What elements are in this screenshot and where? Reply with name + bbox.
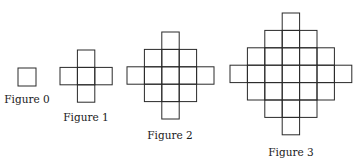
grid-cell bbox=[60, 67, 77, 84]
grid-cell bbox=[179, 49, 196, 66]
grid-cell bbox=[179, 67, 196, 84]
grid-cell bbox=[282, 117, 299, 134]
grid-cell bbox=[317, 48, 334, 65]
grid-cell bbox=[317, 65, 334, 82]
grid-cell bbox=[317, 83, 334, 100]
figure-2 bbox=[127, 32, 214, 119]
figure-1-label: Figure 1 bbox=[63, 111, 108, 123]
grid-cell bbox=[247, 65, 264, 82]
figure-3 bbox=[230, 13, 352, 135]
grid-cell bbox=[282, 65, 299, 82]
grid-cell bbox=[334, 65, 351, 82]
grid-cell bbox=[282, 13, 299, 30]
grid-cell bbox=[300, 100, 317, 117]
grid-cell bbox=[282, 83, 299, 100]
grid-cell bbox=[300, 48, 317, 65]
grid-cell bbox=[247, 48, 264, 65]
grid-cell bbox=[282, 30, 299, 47]
grid-cell bbox=[265, 30, 282, 47]
figure-1 bbox=[60, 50, 112, 102]
grid-cell bbox=[162, 32, 179, 49]
grid-cell bbox=[265, 48, 282, 65]
figure-0-label: Figure 0 bbox=[4, 93, 49, 105]
grid-cell bbox=[162, 84, 179, 101]
grid-cell bbox=[18, 68, 36, 86]
grid-cell bbox=[77, 50, 94, 67]
grid-cell bbox=[77, 85, 94, 102]
grid-cell bbox=[127, 67, 144, 84]
grid-cell bbox=[179, 84, 196, 101]
grid-cell bbox=[300, 30, 317, 47]
grid-cell bbox=[300, 83, 317, 100]
grid-cell bbox=[282, 48, 299, 65]
figure-2-label: Figure 2 bbox=[147, 129, 192, 141]
grid-cell bbox=[247, 83, 264, 100]
grid-cell bbox=[144, 49, 161, 66]
grid-cell bbox=[144, 84, 161, 101]
grid-cell bbox=[300, 65, 317, 82]
grid-cell bbox=[77, 67, 94, 84]
grid-cell bbox=[265, 100, 282, 117]
grid-cell bbox=[144, 67, 161, 84]
grid-cell bbox=[95, 67, 112, 84]
grid-cell bbox=[282, 100, 299, 117]
grid-cell bbox=[197, 67, 214, 84]
grid-cell bbox=[162, 102, 179, 119]
grid-cell bbox=[265, 65, 282, 82]
grid-cell bbox=[265, 83, 282, 100]
grid-cell bbox=[162, 49, 179, 66]
figure-0 bbox=[18, 68, 36, 86]
grid-cell bbox=[162, 67, 179, 84]
grid-cell bbox=[230, 65, 247, 82]
figure-3-label: Figure 3 bbox=[268, 146, 313, 158]
figure-sequence-diagram: Figure 0 Figure 1 Figure 2 Figure 3 bbox=[0, 0, 360, 162]
